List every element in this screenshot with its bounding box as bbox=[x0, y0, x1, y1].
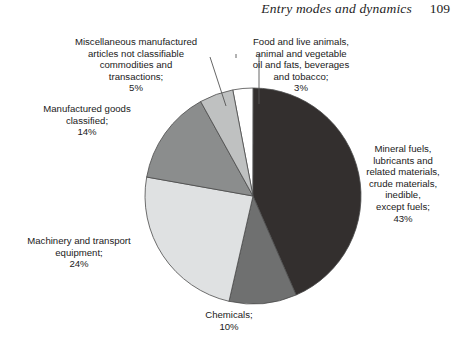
pie-label-manufactured-goods: Manufactured goods classified; 14% bbox=[24, 103, 150, 138]
page-number: 109 bbox=[430, 1, 450, 17]
pie-label-chemicals: Chemicals; 10% bbox=[170, 309, 288, 332]
pie-chart: Miscellaneous manufactured articles not … bbox=[0, 20, 456, 349]
running-head: Entry modes and dynamics 109 bbox=[0, 0, 456, 20]
pie-label-miscellaneous: Miscellaneous manufactured articles not … bbox=[52, 36, 220, 94]
pie-label-food: Food and live animals, animal and vegeta… bbox=[236, 36, 366, 94]
running-head-title: Entry modes and dynamics bbox=[261, 1, 412, 17]
pie-label-mineral-fuels: Mineral fuels, lubricants and related ma… bbox=[352, 143, 454, 224]
pie-label-machinery-transport: Machinery and transport equipment; 24% bbox=[4, 235, 154, 270]
pie-slices bbox=[145, 88, 361, 304]
